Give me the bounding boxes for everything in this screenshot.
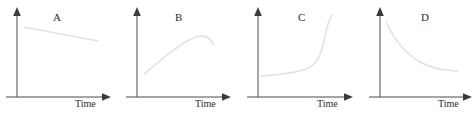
panel-d: D Time bbox=[364, 0, 475, 114]
y-axis-arrowhead-b bbox=[133, 7, 141, 16]
x-axis-label-a: Time bbox=[75, 99, 96, 109]
panel-label-c: C bbox=[298, 12, 305, 23]
panel-b: B Time bbox=[121, 0, 239, 114]
x-axis-arrowhead-b bbox=[222, 93, 231, 101]
four-panel-line-graph-figure: A Time B Time C Time bbox=[0, 0, 475, 114]
x-axis-arrowhead-d bbox=[463, 93, 472, 101]
x-axis-label-c: Time bbox=[317, 99, 338, 109]
y-axis-arrowhead-c bbox=[254, 7, 262, 16]
curve-a-linear-decline bbox=[24, 27, 98, 41]
panel-label-d: D bbox=[421, 12, 429, 23]
x-axis-label-b: Time bbox=[195, 99, 216, 109]
x-axis-arrowhead-c bbox=[344, 93, 353, 101]
panel-label-b: B bbox=[175, 12, 182, 23]
curve-b-rise-then-fall bbox=[144, 36, 214, 74]
curve-c-exponential-growth bbox=[261, 15, 332, 76]
panel-c: C Time bbox=[242, 0, 360, 114]
x-axis-label-d: Time bbox=[438, 99, 459, 109]
panel-a: A Time bbox=[0, 0, 118, 114]
panel-label-a: A bbox=[53, 12, 61, 23]
y-axis-arrowhead-d bbox=[376, 7, 384, 16]
y-axis-arrowhead-a bbox=[13, 7, 21, 16]
curve-d-exponential-decay bbox=[386, 22, 458, 71]
x-axis-arrowhead-a bbox=[102, 93, 111, 101]
